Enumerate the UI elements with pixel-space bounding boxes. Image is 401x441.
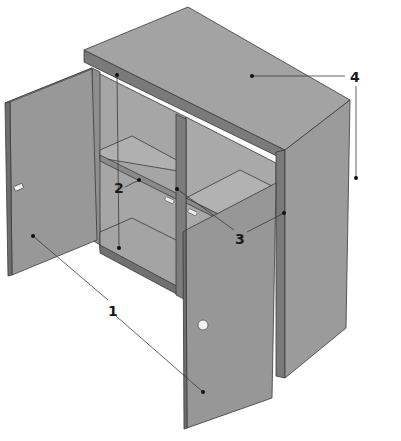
side-panel-front-edge — [276, 150, 285, 378]
callout-2-dot-shelf — [137, 178, 141, 182]
cabinet-diagram: 4 2 3 1 — [0, 0, 401, 441]
callout-4-label: 4 — [350, 69, 360, 85]
callout-1-dot-right-door — [201, 390, 205, 394]
left-door — [10, 69, 97, 275]
callout-2-label: 2 — [114, 180, 124, 196]
right-door-knob — [198, 320, 208, 330]
callout-4-dot-side — [354, 176, 358, 180]
right-door-thickness — [183, 230, 187, 429]
callout-3-label: 3 — [235, 231, 245, 247]
callout-2-dot-bottom — [117, 246, 121, 250]
callout-3-dot-divider — [175, 187, 179, 191]
callout-2-dot-top — [115, 73, 119, 77]
callout-1-dot-left-door — [31, 234, 35, 238]
callout-1-label: 1 — [108, 303, 118, 319]
callout-3-dot-edge — [282, 211, 286, 215]
callout-4-dot-top — [250, 74, 254, 78]
